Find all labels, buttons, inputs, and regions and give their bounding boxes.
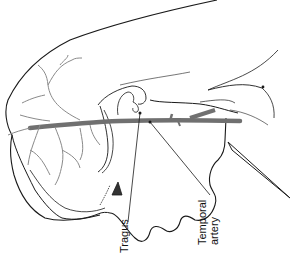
label-temporal: Temporal — [197, 200, 208, 245]
neck-line — [150, 100, 238, 113]
forehead-line — [120, 72, 190, 85]
face-contour — [12, 135, 110, 219]
tragus-pointer — [128, 113, 140, 222]
eyebrow — [100, 185, 110, 205]
tragus-pointer-dot — [139, 112, 142, 115]
collar-line — [200, 100, 235, 103]
hair-line-1 — [208, 85, 262, 90]
scalp-vessels — [8, 55, 100, 185]
hair-line-3 — [262, 88, 274, 118]
label-artery: artery — [209, 217, 220, 245]
cheek-contour — [30, 170, 105, 212]
ear-inner — [117, 92, 138, 115]
label-tragus: Tragus — [119, 219, 130, 253]
temporal-artery-branch — [190, 110, 215, 118]
eye — [112, 182, 122, 195]
hair-line-2 — [208, 50, 278, 90]
dot-marker — [262, 86, 265, 89]
temporal-pointer-dot — [149, 121, 152, 124]
temporal-pointer — [150, 122, 210, 195]
head-drawing — [0, 0, 294, 255]
chin-spike — [228, 142, 290, 198]
anatomical-illustration: Tragus Temporal artery — [0, 0, 294, 255]
head-outline — [6, 0, 217, 220]
temporal-artery — [30, 120, 240, 128]
